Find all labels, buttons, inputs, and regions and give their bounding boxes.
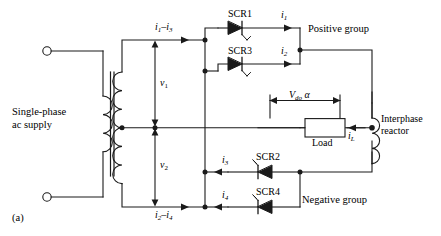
scr1-input-lead bbox=[205, 28, 218, 40]
scr4-triangle bbox=[258, 201, 272, 214]
junction-centre-tap bbox=[120, 125, 125, 130]
vdo-arrow-head-right bbox=[333, 97, 341, 104]
negative-group-label: Negative group bbox=[302, 194, 367, 205]
negative-group-to-reactor-lead bbox=[300, 141, 372, 172]
v1-arrow-head-top bbox=[152, 41, 159, 48]
v2-arrow-head-bottom bbox=[152, 200, 159, 207]
interphase-reactor-coil bbox=[372, 118, 380, 164]
scr3-gate-lead bbox=[242, 71, 251, 77]
v2-label: v2 bbox=[160, 160, 168, 172]
positive-group-label: Positive group bbox=[308, 23, 369, 34]
ac-terminal-top-circle bbox=[43, 47, 51, 55]
i2-arrow-head bbox=[284, 61, 292, 68]
interphase-reactor-label: Interphase reactor bbox=[381, 113, 423, 137]
scr1-label: SCR1 bbox=[228, 9, 252, 20]
i4-arrow-head bbox=[214, 204, 222, 211]
i4-label: i4 bbox=[222, 190, 228, 202]
figure-caption: (a) bbox=[12, 212, 24, 223]
ac-terminal-bottom-circle bbox=[43, 193, 51, 201]
i2-minus-i4-label: i2–i4 bbox=[155, 210, 173, 222]
i2-label: i2 bbox=[281, 46, 287, 58]
i1-arrow-head bbox=[284, 25, 292, 32]
scr3-triangle bbox=[228, 58, 242, 71]
junction-positive-group bbox=[298, 48, 303, 53]
secondary-top-lead bbox=[122, 40, 205, 72]
secondary-bottom-lead bbox=[122, 184, 205, 207]
ac-supply-line2: ac supply bbox=[12, 119, 52, 130]
vdo-alpha-label: Vdo α bbox=[289, 90, 310, 102]
scr1-gate-lead bbox=[242, 35, 251, 41]
i1-minus-i3-arrow-head bbox=[181, 37, 189, 44]
junction-negative-group bbox=[298, 170, 303, 175]
v1-label: v1 bbox=[160, 78, 168, 90]
ac-supply-line1: Single-phase bbox=[12, 106, 66, 117]
scr3-anode-lead bbox=[218, 64, 228, 71]
load-label: Load bbox=[312, 138, 333, 149]
scr2-triangle bbox=[258, 166, 272, 179]
reactor-line2: reactor bbox=[381, 125, 409, 136]
junction-scr2-rail bbox=[203, 170, 208, 175]
reactor-line1: Interphase bbox=[381, 113, 423, 124]
scr1-triangle bbox=[228, 22, 242, 35]
i3-label: i3 bbox=[222, 155, 228, 167]
iL-label: iL bbox=[348, 131, 355, 143]
vdo-arrow-head-left bbox=[270, 97, 278, 104]
scr2-label: SCR2 bbox=[256, 152, 280, 163]
ac-supply-label: Single-phase ac supply bbox=[12, 106, 66, 132]
scr3-label: SCR3 bbox=[228, 46, 252, 57]
i3-arrow-head bbox=[214, 169, 222, 176]
figure-canvas: Single-phase ac supply v1 v2 i1–i3 i2–i4… bbox=[0, 0, 441, 236]
junction-v-arrows bbox=[153, 125, 158, 130]
scr4-label: SCR4 bbox=[256, 187, 280, 198]
positive-group-to-reactor-lead bbox=[300, 50, 372, 118]
junction-bottom-rail bbox=[203, 205, 208, 210]
i1-label: i1 bbox=[281, 10, 287, 22]
i1-minus-i3-label: i1–i3 bbox=[155, 22, 173, 34]
load-block bbox=[305, 119, 345, 137]
i2-minus-i4-arrow-head bbox=[181, 204, 189, 211]
junction-reactor-centre bbox=[369, 125, 375, 131]
junction-scr3-rail bbox=[203, 69, 208, 74]
junction-top-rail bbox=[203, 38, 208, 43]
